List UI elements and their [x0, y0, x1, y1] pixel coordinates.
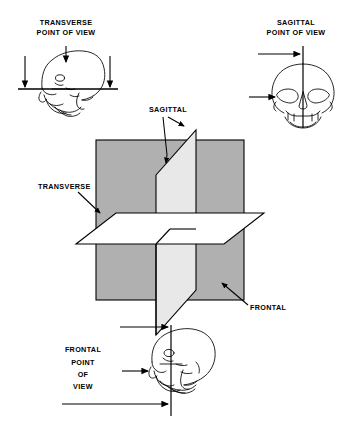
figure-canvas: TRANSVERSE POINT OF VIEW — [0, 0, 348, 422]
skull-lateral-bottom — [149, 329, 215, 394]
frontal-pov-drawing — [0, 0, 348, 422]
